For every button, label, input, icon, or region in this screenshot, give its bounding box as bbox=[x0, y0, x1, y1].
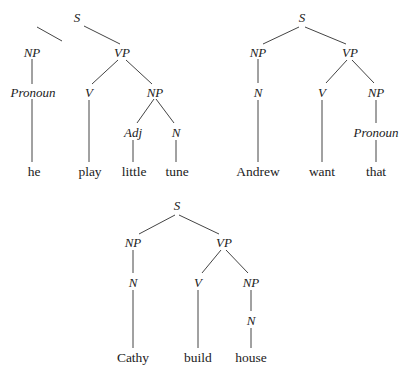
category-node-np: NP bbox=[368, 86, 385, 99]
category-node-n: N bbox=[129, 276, 138, 289]
tree-edge bbox=[352, 60, 374, 83]
category-node-v: V bbox=[194, 276, 202, 289]
category-node-np: NP bbox=[125, 236, 142, 249]
tree-edge bbox=[305, 27, 346, 44]
tree-edge bbox=[92, 60, 118, 84]
category-node-pronoun: Pronoun bbox=[353, 126, 398, 139]
tree-edge bbox=[156, 99, 174, 123]
category-node-v: V bbox=[85, 86, 93, 99]
category-node-vp: VP bbox=[342, 46, 358, 59]
category-node-vp: VP bbox=[114, 46, 130, 59]
tree-edge bbox=[126, 60, 152, 84]
tree-edge bbox=[137, 99, 154, 123]
leaf-word: want bbox=[309, 165, 335, 179]
leaf-word: Andrew bbox=[236, 165, 280, 179]
category-node-adj: Adj bbox=[124, 126, 142, 139]
category-node-s: S bbox=[174, 199, 181, 212]
category-node-v: V bbox=[318, 86, 326, 99]
tree-edge bbox=[202, 250, 221, 273]
category-node-np: NP bbox=[243, 276, 260, 289]
leaf-word: play bbox=[78, 165, 101, 179]
leaf-word: tune bbox=[165, 165, 188, 179]
leaf-word: he bbox=[28, 165, 41, 179]
category-node-np: NP bbox=[147, 86, 164, 99]
tree-edge bbox=[84, 26, 120, 44]
category-node-n: N bbox=[247, 314, 256, 327]
tree-edge bbox=[37, 27, 62, 41]
tree-edge bbox=[326, 60, 347, 83]
category-node-np: NP bbox=[250, 46, 267, 59]
tree-edge bbox=[226, 250, 248, 273]
tree-edge bbox=[263, 27, 299, 44]
category-node-n: N bbox=[172, 126, 181, 139]
leaf-word: build bbox=[184, 351, 212, 365]
tree-andrew-want-that-edges bbox=[258, 27, 376, 162]
category-node-n: N bbox=[254, 86, 263, 99]
category-node-s: S bbox=[299, 11, 306, 24]
tree-cathy-build-house-edges bbox=[133, 215, 251, 348]
syntax-tree-diagram: SNPVPPronounVNPAdjNheplaylittletuneSNPVP… bbox=[0, 0, 407, 369]
tree-edge bbox=[139, 215, 175, 234]
category-node-np: NP bbox=[24, 46, 41, 59]
leaf-word: that bbox=[366, 165, 386, 179]
leaf-word: little bbox=[122, 165, 147, 179]
category-node-s: S bbox=[74, 11, 81, 24]
leaf-word: house bbox=[235, 351, 267, 365]
tree-edge bbox=[179, 215, 219, 234]
category-node-pronoun: Pronoun bbox=[10, 86, 55, 99]
leaf-word: Cathy bbox=[117, 351, 149, 365]
category-node-vp: VP bbox=[216, 236, 232, 249]
